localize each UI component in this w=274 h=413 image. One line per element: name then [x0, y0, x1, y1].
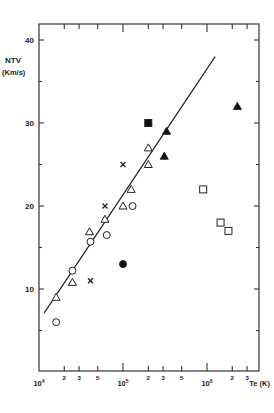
x-major-label: 104: [33, 378, 44, 388]
x-minor-label: 3: [77, 375, 81, 381]
x-axis-label: Te (K): [249, 379, 270, 388]
x-minor-label: 2: [231, 375, 235, 381]
axis-labels: 1020304010410510623523523Te (K): [25, 36, 270, 388]
y-tick-label: 40: [25, 36, 34, 45]
data-point-open-triangle: [119, 202, 127, 209]
fit-line: [44, 57, 215, 313]
data-point-filled-triangle: [233, 102, 241, 109]
regression-line: [44, 57, 215, 313]
x-major-label: 106: [201, 378, 212, 388]
data-point-open-triangle: [52, 293, 60, 300]
data-points: [52, 102, 241, 325]
x-minor-label: 2: [63, 375, 67, 381]
data-point-open-triangle: [86, 228, 94, 235]
y-tick-label: 20: [25, 202, 34, 211]
data-point-filled-triangle: [160, 152, 168, 159]
data-point-open-circle: [69, 267, 76, 274]
data-point-open-square: [217, 219, 224, 226]
x-minor-label: 5: [96, 375, 100, 381]
data-point-open-circle: [53, 319, 60, 326]
axis-ticks: [39, 24, 259, 371]
data-point-open-circle: [103, 232, 110, 239]
data-point-filled-circle: [120, 261, 127, 268]
data-point-open-square: [200, 186, 207, 193]
data-point-cross: [121, 162, 126, 167]
x-minor-label: 5: [180, 375, 184, 381]
data-point-open-triangle: [144, 144, 152, 151]
y-tick-label: 30: [25, 119, 34, 128]
x-major-label: 105: [117, 378, 128, 388]
y-axis-units: (Km/s): [2, 68, 26, 77]
y-tick-label: 10: [25, 285, 34, 294]
data-point-filled-triangle: [163, 127, 171, 134]
x-minor-label: 3: [161, 375, 165, 381]
data-point-cross: [102, 204, 107, 209]
data-point-open-triangle: [101, 215, 109, 222]
plot-frame: [39, 24, 259, 371]
data-point-cross: [88, 278, 93, 283]
x-minor-label: 2: [147, 375, 151, 381]
y-axis-label: NTV: [5, 56, 22, 65]
data-point-filled-square: [145, 120, 152, 127]
data-point-open-triangle: [68, 278, 76, 285]
scatter-chart: 1020304010410510623523523Te (K) NTV (Km/…: [0, 0, 274, 413]
data-point-open-square: [225, 227, 232, 234]
data-point-open-circle: [87, 238, 94, 245]
data-point-open-circle: [129, 203, 136, 210]
